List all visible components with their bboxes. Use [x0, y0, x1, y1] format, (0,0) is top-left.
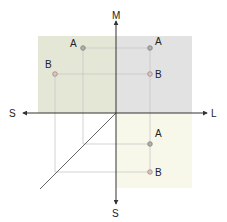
point-a-upper-left — [81, 46, 86, 51]
point-a-lower-right — [148, 142, 153, 147]
point-b-lower-right — [148, 170, 153, 175]
label-b-lower-right: B — [155, 167, 162, 178]
axis-label-l: L — [211, 108, 217, 119]
upper-left-plane — [38, 36, 116, 113]
label-a-lower-right: A — [155, 128, 162, 139]
point-b-upper-left — [53, 72, 58, 77]
point-a-upper-right — [148, 46, 153, 51]
label-a-upper-left: A — [70, 38, 77, 49]
projection-diagram: M S L S A B A B A B — [0, 0, 227, 222]
axis-label-s-down: S — [112, 208, 119, 219]
upper-right-plane — [116, 36, 192, 113]
point-b-upper-right — [148, 72, 153, 77]
diagram-canvas: M S L S A B A B A B — [0, 0, 227, 222]
label-b-upper-right: B — [155, 69, 162, 80]
diagonal-line — [40, 113, 116, 189]
lower-right-plane — [116, 113, 192, 188]
axis-label-s-left: S — [9, 108, 16, 119]
label-b-upper-left: B — [45, 59, 52, 70]
label-a-upper-right: A — [155, 36, 162, 47]
axis-label-m: M — [112, 10, 120, 21]
